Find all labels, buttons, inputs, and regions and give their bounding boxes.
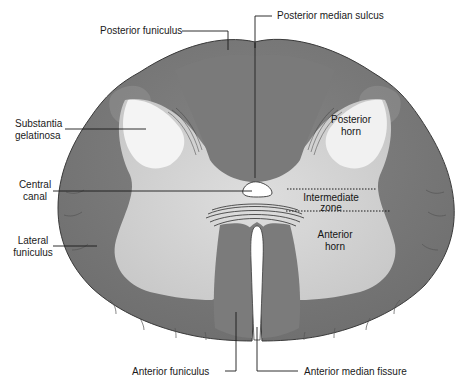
label-posterior-funiculus: Posterior funiculus [100, 25, 182, 36]
label-lateral-funiculus-line1: Lateral [10, 235, 56, 246]
label-anterior-horn-line1: Anterior [310, 229, 360, 240]
label-anterior-horn-line2: horn [310, 241, 360, 252]
spinal-cord-illustration [0, 0, 467, 388]
label-central-canal-line2: canal [14, 191, 56, 202]
label-intermediate-zone-line2: zone [296, 202, 366, 213]
label-central-canal-line1: Central [14, 179, 56, 190]
label-anterior-funiculus: Anterior funiculus [132, 366, 209, 377]
label-lateral-funiculus-line2: funiculus [10, 247, 56, 258]
label-anterior-median-fissure: Anterior median fissure [304, 366, 407, 377]
label-posterior-median-sulcus: Posterior median sulcus [277, 10, 384, 21]
label-posterior-horn-line1: Posterior [326, 114, 376, 125]
label-substantia-gelatinosa-line2: gelatinosa [15, 130, 61, 141]
spinal-cord-diagram: Posterior funiculus Posterior median sul… [0, 0, 467, 388]
label-posterior-horn-line2: horn [326, 126, 376, 137]
label-substantia-gelatinosa-line1: Substantia [15, 118, 62, 129]
